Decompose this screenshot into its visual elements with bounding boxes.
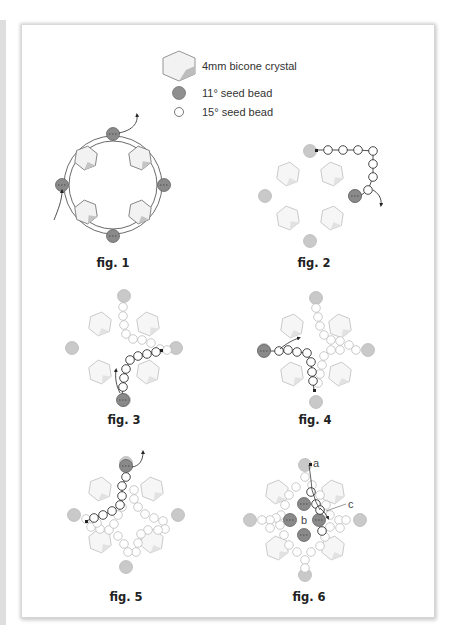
seed-bead-15 [119,312,128,321]
seed-bead-15 [336,346,345,355]
seed-bead-15 [119,303,128,312]
crystal-shade [279,551,288,560]
crystal-shade [342,329,351,338]
seed-bead-15 [327,336,336,345]
seed-bead-15 [369,173,378,182]
seed-bead-15 [326,511,335,520]
figure-2 [259,145,382,248]
seed-bead-15 [280,531,289,540]
seed-bead-15 [293,348,302,357]
seed-bead-11 [120,561,133,574]
seed-bead-11 [362,344,375,357]
seed-bead-15 [141,510,150,519]
seed-bead-15 [132,548,141,557]
seed-bead-15 [137,530,146,539]
seed-bead-15 [129,335,138,344]
seed-bead-15 [312,304,321,313]
legend-label-11-bead: 11° seed bead [202,87,272,99]
seed-bead-15 [284,346,293,355]
seed-bead-15 [342,516,351,525]
figure-5 [68,452,185,574]
seed-bead-15 [116,501,125,510]
seed-bead-15 [318,527,327,536]
seed-bead-15 [326,523,335,532]
crystal-shade [102,375,111,384]
seed-bead-15 [285,541,294,550]
seed-bead-15 [316,542,325,551]
seed-bead-11 [68,509,81,522]
seed-bead-15-icon [175,108,184,117]
seed-bead-15 [307,358,316,367]
seed-bead-15 [258,516,267,525]
seed-bead-15 [275,347,284,356]
seed-bead-15 [320,352,329,361]
seed-bead-15 [327,346,336,355]
crystal-shade [290,221,299,230]
crystal-shade [294,377,303,386]
seed-bead-15 [152,348,161,357]
seed-bead-15 [130,495,139,504]
thread-end [313,389,316,392]
bicone-crystal [141,477,163,501]
crystal-shade [334,177,343,186]
seed-bead-15 [159,517,168,526]
thread-end [160,349,163,352]
seed-bead-15 [163,346,172,355]
bicone-crystal [75,200,97,224]
seed-bead-15 [118,482,127,491]
seed-bead-15 [124,548,133,557]
seed-bead-15 [154,526,163,535]
thread-end [315,149,318,152]
seed-bead-15 [99,511,108,520]
bicone-crystal [281,362,303,386]
seed-bead-15 [150,514,159,523]
seed-bead-11 [259,190,272,203]
seed-bead-15 [114,532,123,541]
seed-bead-15 [118,492,127,501]
seed-bead-15 [336,337,345,346]
figure-4 [258,292,375,409]
caption-fig-2: fig. 2 [297,256,330,270]
seed-bead-11 [118,290,131,303]
seed-bead-11 [170,342,183,355]
seed-bead-11 [354,514,367,527]
seed-bead-15 [318,361,327,370]
caption-fig-4: fig. 4 [298,413,331,427]
seed-bead-15 [354,146,363,155]
bicone-crystal [129,146,151,170]
caption-fig-3: fig. 3 [107,413,140,427]
bicone-crystal [329,314,351,338]
seed-bead-15 [126,356,135,365]
figure-1 [54,115,171,243]
seed-bead-11 [310,396,323,409]
thread-path [373,190,381,205]
seed-bead-11 [310,292,323,305]
seed-bead-15 [120,374,129,383]
thread-path [119,115,137,133]
beading-diagram: 4mm bicone crystal 11° seed bead 15° see… [0,0,453,640]
thread-path [132,452,143,467]
seed-bead-15 [301,564,310,573]
thread-path [54,191,62,220]
seed-bead-15 [147,339,156,348]
figure-3 [66,290,183,407]
seed-bead-11 [244,514,257,527]
seed-bead-15 [266,524,275,533]
seed-bead-15 [281,501,290,510]
seed-bead-15 [369,147,378,156]
seed-bead-15 [308,368,317,377]
seed-bead-15 [293,548,302,557]
caption-fig-1: fig. 1 [96,256,129,270]
seed-bead-15 [122,365,131,374]
crystal-shade [154,492,163,501]
seed-bead-15 [352,346,361,355]
caption-fig-6: fig. 6 [292,590,325,604]
seed-bead-15 [316,491,325,500]
seed-bead-11 [172,509,185,522]
thread-end [309,463,312,466]
seed-bead-15 [316,370,325,379]
seed-bead-15 [303,349,312,358]
caption-fig-5: fig. 5 [109,590,142,604]
seed-bead-15 [134,503,143,512]
thread-end [85,520,88,523]
